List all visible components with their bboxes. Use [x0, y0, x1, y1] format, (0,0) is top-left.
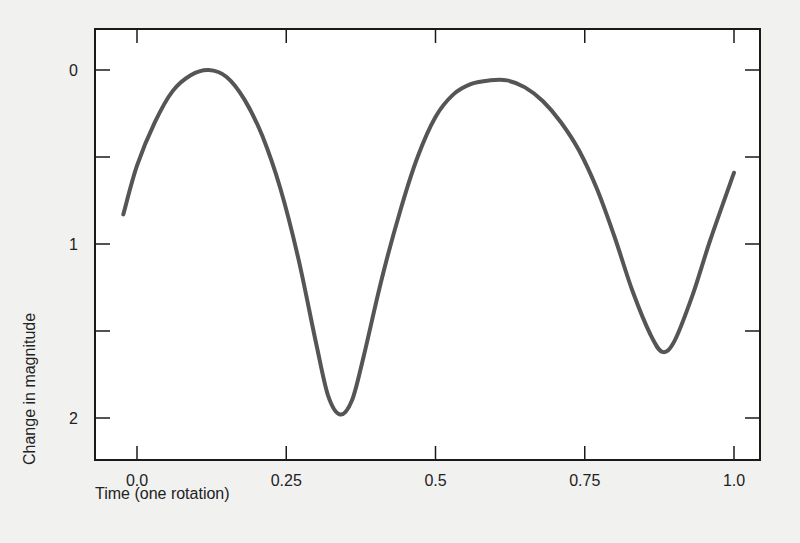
y-tick-label: 1: [69, 236, 78, 253]
y-axis-label: Change in magnitude: [21, 313, 38, 465]
y-tick-label: 0: [69, 62, 78, 79]
y-tick-labels: 012: [69, 62, 78, 427]
light-curve-chart: 0.00.250.50.751.0 012 Time (one rotation…: [0, 0, 800, 543]
plot-area: [95, 29, 760, 460]
x-tick-label: 0.5: [424, 472, 446, 489]
x-tick-label: 0.25: [271, 472, 302, 489]
y-tick-label: 2: [69, 410, 78, 427]
x-axis-label: Time (one rotation): [95, 485, 230, 502]
x-tick-label: 0.75: [569, 472, 600, 489]
x-tick-label: 1.0: [723, 472, 745, 489]
